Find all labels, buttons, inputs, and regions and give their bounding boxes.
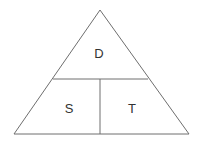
triangle-outline xyxy=(14,10,189,134)
label-bottom-left: S xyxy=(65,101,74,116)
label-top: D xyxy=(94,46,103,61)
formula-triangle-diagram: D S T xyxy=(0,0,198,142)
label-bottom-right: T xyxy=(128,101,136,116)
